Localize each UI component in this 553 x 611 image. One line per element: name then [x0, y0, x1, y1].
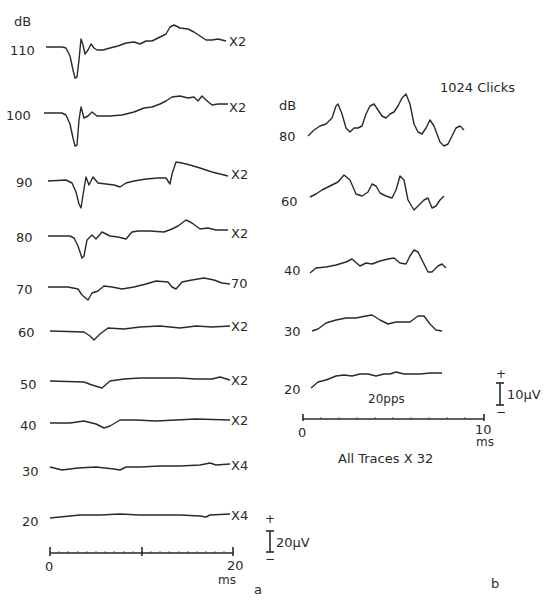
panel-a-time-axis: 0 20 ms [45, 547, 244, 587]
panel-a-scale-bar: + − 20μV [265, 512, 310, 566]
scale-label-a: 20μV [276, 535, 310, 550]
b-level-label-40: 40 [284, 263, 301, 278]
trace-50 [50, 377, 230, 388]
trace-30 [50, 463, 230, 470]
trace-100 [44, 96, 228, 146]
b-trace-80 [308, 94, 464, 146]
scale-plus-b: + [496, 367, 506, 381]
gain-label-20: X4 [231, 508, 248, 523]
b-trace-60 [310, 175, 444, 210]
trace-90 [48, 162, 228, 208]
panel-label-a: a [254, 582, 262, 597]
level-label-50: 50 [20, 377, 37, 392]
b-level-label-20: 20 [284, 382, 301, 397]
panel-a-x-unit: ms [218, 573, 236, 587]
trace-70 [48, 278, 230, 300]
trace-60 [50, 326, 230, 340]
b-trace-20 [311, 372, 442, 388]
level-label-30: 30 [22, 464, 39, 479]
gain-label-100: X2 [229, 100, 246, 115]
panel-b-x-unit: ms [476, 435, 494, 449]
gain-label-90: X2 [231, 167, 248, 182]
panel-a-x-start: 0 [45, 559, 53, 574]
level-label-100: 100 [6, 108, 31, 123]
panel-b-scale-bar: + − 10μV [496, 367, 541, 419]
gain-label-80: X2 [231, 226, 248, 241]
panel-a-unit-label: dB [14, 14, 31, 29]
rate-label: 20pps [368, 392, 405, 406]
panel-b-time-axis: 0 10 ms [298, 414, 494, 449]
scale-minus-a: − [265, 552, 275, 566]
gain-label-60: X2 [231, 319, 248, 334]
trace-40 [50, 419, 230, 428]
level-label-80: 80 [16, 230, 33, 245]
level-label-60: 60 [18, 325, 35, 340]
gain-label-30: X4 [231, 458, 248, 473]
gain-note: All Traces X 32 [338, 451, 433, 466]
b-trace-40 [310, 250, 446, 273]
gain-label-50: X2 [231, 373, 248, 388]
b-level-label-80: 80 [279, 129, 296, 144]
panel-a-x-end: 20 [227, 558, 244, 573]
trace-80 [48, 220, 228, 258]
b-trace-30 [312, 315, 442, 331]
panel-a: dB 110 X2 100 X2 90 X2 80 X2 70 70 60 X2… [6, 14, 310, 597]
panel-b-title: 1024 Clicks [440, 80, 515, 95]
gain-label-110: X2 [229, 34, 246, 49]
level-label-20: 20 [22, 514, 39, 529]
panel-b-x-start: 0 [298, 425, 306, 440]
panel-b-unit-label: dB [279, 98, 296, 113]
scale-label-b: 10μV [507, 387, 541, 402]
level-label-70: 70 [16, 282, 33, 297]
scale-plus-a: + [265, 512, 275, 526]
level-label-90: 90 [16, 175, 33, 190]
gain-label-70: 70 [231, 276, 248, 291]
level-label-110: 110 [10, 43, 35, 58]
level-label-40: 40 [20, 418, 37, 433]
trace-20 [50, 514, 230, 518]
panel-b: 1024 Clicks dB 80 60 40 30 20 20pps [279, 80, 541, 591]
figure-canvas: dB 110 X2 100 X2 90 X2 80 X2 70 70 60 X2… [0, 0, 553, 611]
b-level-label-60: 60 [281, 194, 298, 209]
scale-minus-b: − [496, 405, 506, 419]
gain-label-40: X2 [231, 413, 248, 428]
b-level-label-30: 30 [284, 324, 301, 339]
panel-label-b: b [491, 576, 499, 591]
trace-110 [46, 25, 226, 78]
